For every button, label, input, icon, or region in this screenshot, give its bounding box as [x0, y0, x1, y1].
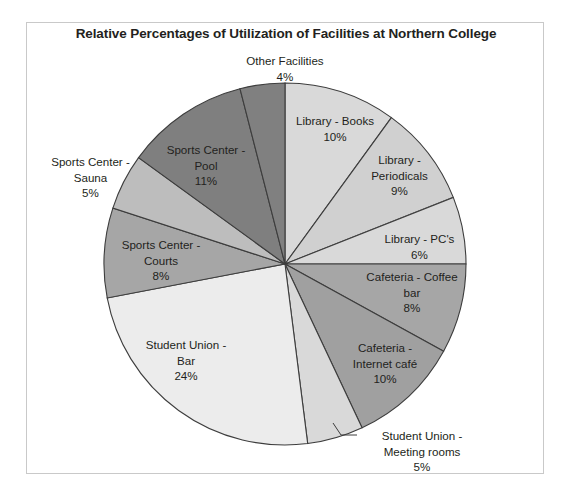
- slice-label-sports-courts: Sports Center - Courts 8%: [106, 237, 216, 284]
- pie-chart: Other Facilities 4% Library - Books 10% …: [0, 0, 572, 500]
- slice-label-library-books: Library - Books 10%: [285, 113, 385, 144]
- slice-label-cafeteria-coffee: Cafeteria - Coffee bar 8%: [352, 269, 472, 316]
- slice-label-sports-pool: Sports Center - Pool 11%: [151, 142, 261, 189]
- slice-label-student-union-bar: Student Union - Bar 24%: [126, 337, 246, 384]
- slice-label-library-periodicals: Library - Periodicals 9%: [357, 152, 442, 199]
- slice-label-sports-sauna: Sports Center - Sauna 5%: [33, 154, 148, 201]
- slice-label-student-union-meeting: Student Union - Meeting rooms 5%: [352, 428, 492, 475]
- slice-label-other-facilities: Other Facilities 4%: [195, 53, 375, 84]
- slice-label-cafeteria-internet: Cafeteria - Internet café 10%: [330, 340, 440, 387]
- slice-label-library-pcs: Library - PC's 6%: [372, 231, 467, 262]
